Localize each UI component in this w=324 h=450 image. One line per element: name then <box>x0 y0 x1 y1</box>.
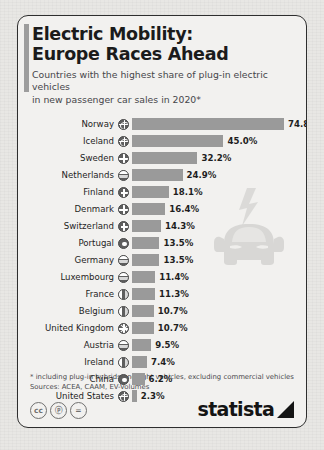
bar-value-label: 2.3% <box>141 391 165 401</box>
flag-icon <box>118 391 129 402</box>
bar-value-label: 32.2% <box>201 153 231 163</box>
flag-icon <box>118 238 129 249</box>
flag-icon <box>118 272 129 283</box>
country-label: United States <box>18 391 118 401</box>
bar <box>132 254 159 266</box>
bar-value-label: 13.5% <box>163 238 193 248</box>
bar <box>132 135 223 147</box>
bar-track: 7.4% <box>132 356 298 368</box>
flag-icon <box>118 136 129 147</box>
chart-row: Norway74.8% <box>18 116 298 133</box>
country-label: Sweden <box>18 153 118 163</box>
bar-track: 32.2% <box>132 152 298 164</box>
subtitle: Countries with the highest share of plug… <box>32 69 294 106</box>
country-label: France <box>18 289 118 299</box>
bar <box>132 118 284 130</box>
country-label: Finland <box>18 187 118 197</box>
bar <box>132 322 154 334</box>
chart-row: Sweden32.2% <box>18 150 298 167</box>
country-label: Ireland <box>18 357 118 367</box>
bar <box>132 152 197 164</box>
bar <box>132 186 169 198</box>
chart-row: Portugal13.5% <box>18 235 298 252</box>
bar-track: 18.1% <box>132 186 298 198</box>
flag-icon <box>118 204 129 215</box>
country-label: Norway <box>18 119 118 129</box>
bar <box>132 390 137 402</box>
country-label: Belgium <box>18 306 118 316</box>
infographic-card: Electric Mobility: Europe Races Ahead Co… <box>17 15 307 428</box>
header: Electric Mobility: Europe Races Ahead Co… <box>18 16 306 110</box>
chart-row: Ireland7.4% <box>18 354 298 371</box>
chart-row: China6.2% <box>18 371 298 388</box>
bar-value-label: 74.8% <box>288 119 307 129</box>
flag-icon <box>118 119 129 130</box>
bar-track: 13.5% <box>132 237 298 249</box>
title-line-2: Europe Races Ahead <box>32 45 294 65</box>
bar-track: 13.5% <box>132 254 298 266</box>
chart-row: Switzerland14.3% <box>18 218 298 235</box>
bar-track: 10.7% <box>132 322 298 334</box>
chart-row: Denmark16.4% <box>18 201 298 218</box>
country-label: Portugal <box>18 238 118 248</box>
chart-row: France11.3% <box>18 286 298 303</box>
subtitle-line-2: in new passenger car sales in 2020* <box>32 94 294 106</box>
country-label: Iceland <box>18 136 118 146</box>
flag-icon <box>118 357 129 368</box>
chart-row: Germany13.5% <box>18 252 298 269</box>
bar <box>132 169 183 181</box>
flag-icon <box>118 221 129 232</box>
bar-track: 6.2% <box>132 373 298 385</box>
bar-value-label: 14.3% <box>165 221 195 231</box>
chart-row: Luxembourg11.4% <box>18 269 298 286</box>
flag-icon <box>118 306 129 317</box>
flag-icon <box>118 187 129 198</box>
bar-value-label: 10.7% <box>158 323 188 333</box>
bar-value-label: 9.5% <box>155 340 179 350</box>
bar <box>132 220 161 232</box>
flag-icon <box>118 153 129 164</box>
bar-track: 14.3% <box>132 220 298 232</box>
title-accent-bar <box>24 24 29 92</box>
bar <box>132 271 155 283</box>
chart-row: United Kingdom10.7% <box>18 320 298 337</box>
country-label: Germany <box>18 255 118 265</box>
bar-track: 2.3% <box>132 390 298 402</box>
bar <box>132 305 154 317</box>
flag-icon <box>118 289 129 300</box>
country-label: Austria <box>18 340 118 350</box>
page-title: Electric Mobility: Europe Races Ahead <box>32 25 294 64</box>
chart-row: United States2.3% <box>18 388 298 405</box>
bar-value-label: 13.5% <box>163 255 193 265</box>
country-label: Netherlands <box>18 170 118 180</box>
bar <box>132 339 151 351</box>
bar <box>132 356 147 368</box>
country-label: United Kingdom <box>18 323 118 333</box>
flag-icon <box>118 323 129 334</box>
bar-value-label: 16.4% <box>169 204 199 214</box>
bar-track: 24.9% <box>132 169 298 181</box>
country-label: Luxembourg <box>18 272 118 282</box>
chart-row: Iceland45.0% <box>18 133 298 150</box>
flag-icon <box>118 340 129 351</box>
country-label: China <box>18 374 118 384</box>
chart-row: Austria9.5% <box>18 337 298 354</box>
bar <box>132 288 155 300</box>
bar-track: 11.4% <box>132 271 298 283</box>
flag-icon <box>118 170 129 181</box>
bar-value-label: 24.9% <box>187 170 217 180</box>
chart-row: Finland18.1% <box>18 184 298 201</box>
flag-icon <box>118 374 129 385</box>
bar-value-label: 7.4% <box>151 357 175 367</box>
bar-value-label: 6.2% <box>149 374 173 384</box>
bar-track: 9.5% <box>132 339 298 351</box>
chart-row: Belgium10.7% <box>18 303 298 320</box>
subtitle-line-1: Countries with the highest share of plug… <box>32 69 294 94</box>
bar-track: 45.0% <box>132 135 298 147</box>
bar-value-label: 11.3% <box>159 289 189 299</box>
bar <box>132 237 159 249</box>
bar-value-label: 11.4% <box>159 272 189 282</box>
bar-track: 10.7% <box>132 305 298 317</box>
bar-chart: Norway74.8%Iceland45.0%Sweden32.2%Nether… <box>18 116 306 405</box>
chart-row: Netherlands24.9% <box>18 167 298 184</box>
